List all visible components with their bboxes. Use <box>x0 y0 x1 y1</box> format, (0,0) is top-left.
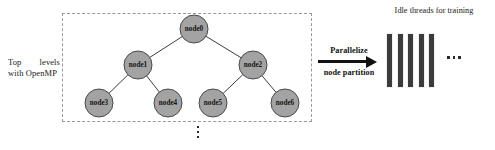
tree-node-label: node6 <box>276 99 295 107</box>
arrow-label-bottom: node partition <box>318 68 380 77</box>
tree-continuation-vertical-ellipsis-icon <box>197 126 199 138</box>
tree-node-label: node4 <box>159 99 178 107</box>
thread-bar-thread-4 <box>418 33 425 88</box>
threads-bars <box>386 33 435 88</box>
tree-node-label: node5 <box>204 99 223 107</box>
tree-node-node3[interactable]: node3 <box>85 89 113 117</box>
tree-graph: node0node1node2node3node4node5node6 <box>0 0 330 130</box>
thread-bar-thread-3 <box>407 33 414 88</box>
tree-node-node2[interactable]: node2 <box>239 51 267 79</box>
tree-node-label: node0 <box>185 25 204 33</box>
thread-bar-thread-1 <box>386 33 393 88</box>
tree-node-node5[interactable]: node5 <box>199 89 227 117</box>
arrow-head-icon <box>366 56 377 68</box>
diagram-canvas: Top levels with OpenMP node0node1node2no… <box>0 0 495 150</box>
tree-edge <box>223 75 243 94</box>
tree-edge <box>109 75 128 93</box>
tree-node-node6[interactable]: node6 <box>271 89 299 117</box>
tree-node-label: node2 <box>244 61 263 69</box>
threads-title: Idle threads for training <box>378 6 490 15</box>
tree-node-node0[interactable]: node0 <box>180 15 208 43</box>
tree-nodes: node0node1node2node3node4node5node6 <box>85 15 299 117</box>
arrow-shaft-icon <box>318 60 368 63</box>
threads-continuation-horizontal-ellipsis-icon <box>447 56 461 59</box>
tree-edge <box>206 36 241 57</box>
arrow-label-top: Parallelize <box>318 46 380 55</box>
thread-bar-thread-2 <box>397 33 404 88</box>
tree-edge <box>150 37 182 58</box>
thread-bar-thread-5 <box>428 33 435 88</box>
parallelize-arrow-group: Parallelize node partition <box>318 46 380 80</box>
tree-node-label: node3 <box>90 99 109 107</box>
tree-edge <box>262 76 276 93</box>
tree-node-node4[interactable]: node4 <box>154 89 182 117</box>
tree-edge <box>147 76 160 92</box>
tree-node-label: node1 <box>129 61 148 69</box>
tree-node-node1[interactable]: node1 <box>124 51 152 79</box>
